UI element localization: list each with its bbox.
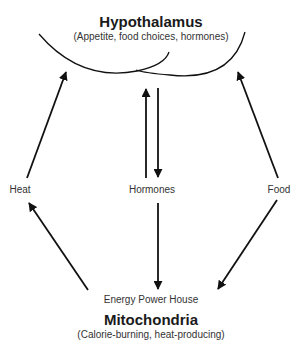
energy-power-house-caption: Energy Power House <box>0 294 302 305</box>
hypothalamus-title: Hypothalamus <box>0 13 302 30</box>
arrow-heat-to-hypothalamus <box>27 72 66 178</box>
arrow-food-to-hypothalamus <box>238 72 278 178</box>
hypothalamus-subtitle: (Appetite, food choices, hormones) <box>0 31 302 42</box>
hormones-label: Hormones <box>122 184 182 195</box>
mitochondria-subtitle: (Calorie-burning, heat-producing) <box>0 329 302 340</box>
heat-label: Heat <box>5 184 35 195</box>
food-label: Food <box>264 184 294 195</box>
arrow-food-to-mitochondria <box>218 200 277 289</box>
arrow-mitochondria-to-heat <box>29 203 88 290</box>
mitochondria-title: Mitochondria <box>0 311 302 328</box>
